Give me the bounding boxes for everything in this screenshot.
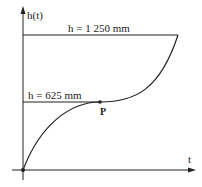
point-p-label: P [100,106,106,117]
x-axis-label: t [188,153,191,165]
inflection-point-p [98,100,102,104]
origin-point [21,168,25,172]
mid-level-label: h = 625 mm [28,89,82,101]
x-axis-arrow-icon [188,168,196,173]
y-axis-arrow-icon [21,6,26,14]
y-axis-label: h(t) [27,9,43,22]
top-level-label: h = 1 250 mm [68,22,130,34]
height-time-diagram: h(t) t h = 1 250 mm h = 625 mm P [0,0,202,187]
